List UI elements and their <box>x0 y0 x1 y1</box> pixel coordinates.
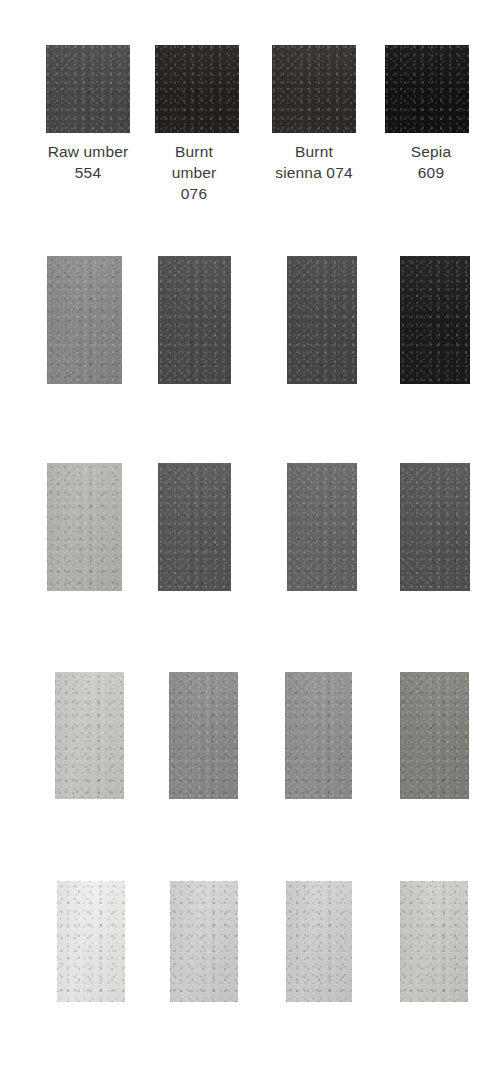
pigment-label: Sepia 609 <box>372 141 490 183</box>
color-swatch <box>400 256 470 384</box>
swatch-cell <box>272 45 356 133</box>
color-swatch <box>55 672 124 799</box>
swatch-cell <box>400 881 468 1002</box>
color-swatch <box>285 672 352 799</box>
pigment-swatch-chart: Raw umber 554 Burnt umber 076 Burnt sien… <box>0 0 499 1081</box>
pigment-label: Burnt sienna 074 <box>255 141 373 183</box>
color-swatch <box>170 881 238 1002</box>
color-swatch <box>47 463 122 591</box>
swatch-cell <box>169 672 238 799</box>
swatch-cell <box>55 672 124 799</box>
pigment-label: Burnt umber 076 <box>130 141 258 204</box>
color-swatch <box>385 45 469 133</box>
swatch-cell <box>400 463 470 591</box>
swatch-cell <box>287 463 357 591</box>
swatch-cell <box>57 881 125 1002</box>
swatch-cell <box>285 672 352 799</box>
color-swatch <box>158 463 231 591</box>
color-swatch <box>158 256 231 384</box>
swatch-row <box>0 45 499 133</box>
color-swatch <box>400 881 468 1002</box>
swatch-row <box>0 672 499 799</box>
color-swatch <box>286 881 352 1002</box>
swatch-cell <box>286 881 352 1002</box>
swatch-cell <box>400 672 469 799</box>
swatch-row <box>0 463 499 591</box>
color-swatch <box>400 672 469 799</box>
color-swatch <box>400 463 470 591</box>
color-swatch <box>287 256 357 384</box>
swatch-cell <box>158 463 231 591</box>
color-swatch <box>155 45 239 133</box>
color-swatch <box>287 463 357 591</box>
color-swatch <box>46 45 130 133</box>
swatch-cell <box>155 45 239 133</box>
swatch-cell <box>47 256 122 384</box>
swatch-cell <box>170 881 238 1002</box>
swatch-cell <box>46 45 130 133</box>
color-swatch <box>47 256 122 384</box>
color-swatch <box>57 881 125 1002</box>
swatch-cell <box>47 463 122 591</box>
swatch-cell <box>287 256 357 384</box>
swatch-cell <box>385 45 469 133</box>
swatch-cell <box>158 256 231 384</box>
swatch-row <box>0 881 499 1002</box>
swatch-cell <box>400 256 470 384</box>
color-swatch <box>272 45 356 133</box>
swatch-row <box>0 256 499 384</box>
color-swatch <box>169 672 238 799</box>
